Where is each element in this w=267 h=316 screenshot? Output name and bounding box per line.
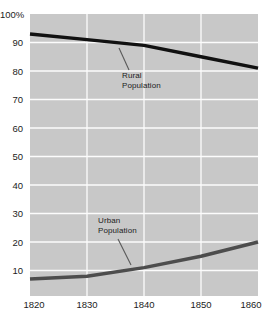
y-tick-label: 50 <box>0 151 23 162</box>
rural-population-annotation: Rural Population <box>122 71 161 90</box>
y-tick-label: 100% <box>0 9 23 20</box>
rural-annotation-line1: Rural <box>122 71 161 81</box>
y-tick-label: 90 <box>0 37 23 48</box>
rural-annotation-line2: Population <box>122 81 161 91</box>
y-tick-label: 80 <box>0 66 23 77</box>
y-tick-label: 40 <box>0 180 23 191</box>
y-tick-label: 10 <box>0 265 23 276</box>
y-tick-label: 60 <box>0 123 23 134</box>
urban-annotation-line1: Urban <box>98 216 137 226</box>
x-tick-label: 1840 <box>129 299 159 310</box>
y-tick-label: 30 <box>0 208 23 219</box>
x-tick-label: 1830 <box>72 299 102 310</box>
urban-population-annotation: Urban Population <box>98 216 137 235</box>
urban-annotation-line2: Population <box>98 226 137 236</box>
population-line-chart: Rural Population Urban Population 100%90… <box>0 0 267 316</box>
x-tick-label: 1820 <box>19 299 49 310</box>
y-tick-label: 20 <box>0 237 23 248</box>
y-tick-label: 70 <box>0 94 23 105</box>
plot-svg <box>0 0 267 316</box>
x-tick-label: 1850 <box>186 299 216 310</box>
x-tick-label: 1860 <box>236 299 266 310</box>
